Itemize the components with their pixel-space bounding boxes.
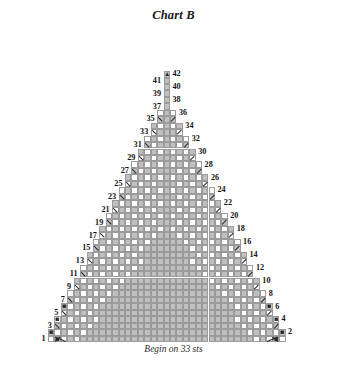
- row-number-left: 29: [127, 154, 135, 162]
- chart-cell[interactable]: [221, 219, 227, 225]
- row-number-left: 21: [102, 206, 110, 214]
- row-number-left: 35: [146, 115, 154, 123]
- row-number-left: 25: [114, 180, 122, 188]
- row-number-right: 22: [224, 199, 232, 207]
- chart-cell[interactable]: [273, 316, 279, 322]
- row-number-right: 32: [192, 135, 200, 143]
- row-number-right: 16: [243, 238, 251, 246]
- chart-cell[interactable]: [164, 90, 170, 96]
- row-number-right: 42: [172, 70, 180, 78]
- chart-cell[interactable]: [228, 226, 234, 232]
- chart-cell[interactable]: [209, 194, 215, 200]
- row-number-right: 20: [230, 212, 238, 220]
- chart-cell[interactable]: [215, 207, 221, 213]
- row-number-right: 36: [179, 109, 187, 117]
- row-number-right: 26: [211, 173, 219, 181]
- row-number-left: 1: [41, 335, 45, 343]
- row-number-right: 40: [172, 83, 180, 91]
- row-number-left: 27: [121, 167, 129, 175]
- chart-cell[interactable]: [209, 187, 215, 193]
- row-number-right: 4: [282, 315, 286, 323]
- row-number-left: 13: [76, 257, 84, 265]
- chart-cell[interactable]: [164, 84, 170, 90]
- chart-cell[interactable]: [196, 161, 202, 167]
- chart-cell[interactable]: [189, 149, 195, 155]
- chart-cell[interactable]: [260, 297, 266, 303]
- chart-cell[interactable]: [241, 258, 247, 264]
- chart-cell[interactable]: [279, 336, 285, 342]
- chart-cell[interactable]: [170, 116, 176, 122]
- chart-cell[interactable]: [215, 200, 221, 206]
- chart-cell[interactable]: [202, 174, 208, 180]
- row-number-left: 7: [61, 296, 65, 304]
- chart-grid[interactable]: 1234567891011121314151617181920212223242…: [0, 0, 347, 378]
- chart-cell[interactable]: [202, 181, 208, 187]
- row-number-left: 17: [89, 231, 97, 239]
- chart-cell[interactable]: [228, 232, 234, 238]
- chart-cell[interactable]: [176, 129, 182, 135]
- row-number-right: 14: [250, 251, 258, 259]
- row-number-left: 37: [153, 102, 161, 110]
- row-number-right: 8: [269, 290, 273, 298]
- chart-cell[interactable]: [266, 303, 272, 309]
- row-number-right: 10: [262, 277, 270, 285]
- chart-cell[interactable]: [196, 168, 202, 174]
- chart-cell[interactable]: [164, 103, 170, 109]
- chart-cell[interactable]: [247, 271, 253, 277]
- row-number-right: 6: [275, 302, 279, 310]
- chart-cell[interactable]: [260, 290, 266, 296]
- row-number-right: 28: [205, 161, 213, 169]
- row-number-right: 38: [172, 96, 180, 104]
- row-number-left: 9: [67, 283, 71, 291]
- chart-cell[interactable]: [241, 252, 247, 258]
- chart-cell[interactable]: [183, 142, 189, 148]
- row-number-right: 24: [217, 186, 225, 194]
- chart-cell[interactable]: [189, 155, 195, 161]
- chart-cell[interactable]: [234, 245, 240, 251]
- row-number-right: 2: [288, 328, 292, 336]
- row-number-right: 18: [237, 225, 245, 233]
- chart-cell[interactable]: [247, 265, 253, 271]
- row-number-left: 33: [140, 128, 148, 136]
- row-number-left: 15: [82, 244, 90, 252]
- row-number-left: 11: [70, 270, 78, 278]
- row-number-left: 5: [54, 309, 58, 317]
- chart-cell[interactable]: [253, 284, 259, 290]
- chart-cell[interactable]: [253, 278, 259, 284]
- chart-cell[interactable]: [164, 78, 170, 84]
- row-number-left: 23: [108, 193, 116, 201]
- chart-cell[interactable]: [234, 239, 240, 245]
- row-number-left: 19: [95, 219, 103, 227]
- chart-cell[interactable]: [273, 323, 279, 329]
- chart-cell[interactable]: [183, 136, 189, 142]
- row-number-left: 39: [153, 90, 161, 98]
- chart-cell[interactable]: [164, 71, 170, 77]
- row-number-left: 3: [48, 322, 52, 330]
- chart-caption: Begin on 33 sts: [0, 344, 347, 354]
- chart-cell[interactable]: [266, 310, 272, 316]
- row-number-right: 34: [185, 122, 193, 130]
- chart-cell[interactable]: [176, 123, 182, 129]
- row-number-left: 41: [153, 77, 161, 85]
- row-number-right: 30: [198, 148, 206, 156]
- chart-cell[interactable]: [170, 110, 176, 116]
- chart-cell[interactable]: [221, 213, 227, 219]
- chart-cell[interactable]: [164, 97, 170, 103]
- row-number-left: 31: [134, 141, 142, 149]
- row-number-right: 12: [256, 264, 264, 272]
- chart-cell[interactable]: [279, 329, 285, 335]
